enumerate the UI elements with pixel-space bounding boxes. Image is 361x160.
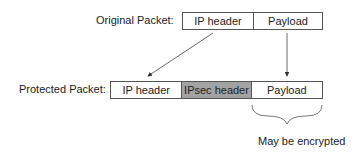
- protected-packet-label: Protected Packet:: [19, 83, 106, 95]
- brace-icon: [252, 105, 322, 124]
- original-ip-header: IP header: [183, 13, 253, 29]
- original-packet-label: Original Packet:: [96, 14, 174, 26]
- protected-payload: Payload: [251, 82, 322, 98]
- original-packet: IP header Payload: [182, 12, 323, 30]
- protected-ip-header: IP header: [111, 82, 181, 98]
- encryption-note: May be encrypted: [258, 135, 345, 147]
- original-payload: Payload: [253, 13, 322, 29]
- protected-packet: IP header IPsec header Payload: [110, 81, 323, 99]
- arrow-ip-header: [148, 33, 213, 76]
- protected-ipsec-header: IPsec header: [181, 82, 250, 98]
